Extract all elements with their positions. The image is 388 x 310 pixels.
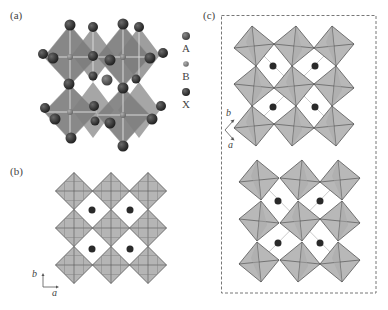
legend-dot-a: [182, 32, 190, 40]
legend-dot-x: [182, 88, 190, 96]
panel-c-bottom-structure: [239, 160, 360, 282]
figure-canvas: [0, 0, 388, 310]
panel-b-structure: [56, 173, 167, 284]
panel-c-top-structure: [234, 26, 354, 146]
panel-a-structure: [38, 19, 168, 152]
axes-panel-c: [225, 120, 235, 141]
legend-dot-b: [183, 61, 189, 67]
axes-panel-b: [42, 273, 60, 289]
